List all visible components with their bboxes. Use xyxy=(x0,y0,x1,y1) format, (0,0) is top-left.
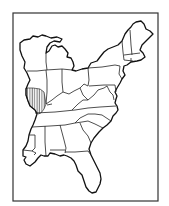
eastern-us-map xyxy=(0,0,169,206)
map-figure xyxy=(0,0,169,206)
southern-illinois-hatched xyxy=(26,88,46,114)
